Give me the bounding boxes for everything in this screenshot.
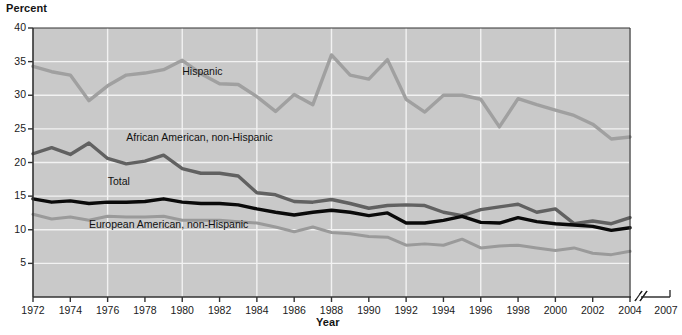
x-tick-label: 1996 xyxy=(461,304,501,316)
x-tick-label: 1974 xyxy=(50,304,90,316)
x-tick-label: 1982 xyxy=(200,304,240,316)
y-tick-label: 10 xyxy=(0,223,26,235)
y-tick-label: 35 xyxy=(0,55,26,67)
series-label-2: Total xyxy=(108,175,130,187)
series-label-0: Hispanic xyxy=(182,65,222,77)
x-tick-label: 1986 xyxy=(274,304,314,316)
x-tick-label: 1988 xyxy=(312,304,352,316)
y-tick-label: 20 xyxy=(0,156,26,168)
x-tick-label: 1998 xyxy=(498,304,538,316)
x-axis-title: Year xyxy=(316,316,340,328)
x-tick-label: 1990 xyxy=(349,304,389,316)
x-tick-label: 1976 xyxy=(88,304,128,316)
x-tick-label: 1984 xyxy=(237,304,277,316)
x-tick-label: 2002 xyxy=(573,304,613,316)
y-tick-label: 40 xyxy=(0,21,26,33)
series-label-3: European American, non-Hispanic xyxy=(89,218,248,230)
y-axis-title: Percent xyxy=(6,2,47,14)
x-tick-label: 1978 xyxy=(125,304,165,316)
x-tick-label: 2000 xyxy=(535,304,575,316)
y-tick-label: 25 xyxy=(0,122,26,134)
x-tick-label: 1972 xyxy=(13,304,53,316)
x-tick-label: 1992 xyxy=(386,304,426,316)
y-tick-label: 15 xyxy=(0,189,26,201)
y-tick-label: 5 xyxy=(0,256,26,268)
y-tick-label: 30 xyxy=(0,88,26,100)
x-tick-label: 2007 xyxy=(646,304,682,316)
x-tick-label: 1994 xyxy=(423,304,463,316)
x-tick-label: 1980 xyxy=(162,304,202,316)
x-tick-label: 2004 xyxy=(610,304,650,316)
series-label-1: African American, non-Hispanic xyxy=(126,131,272,143)
